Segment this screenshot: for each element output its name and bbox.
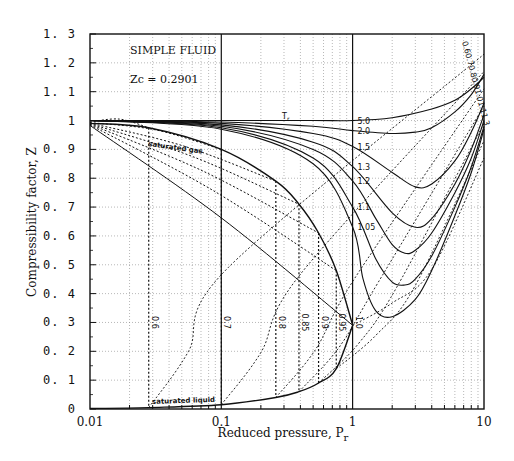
y-tick-label: 0. 2 xyxy=(43,344,76,358)
subcritical-isotherm-label: 0.9 xyxy=(320,316,329,329)
subcritical-isotherm-label: 0.6 xyxy=(150,316,159,329)
chart-curves: 0.60.70.80.850.90.951.05.02.01.51.31.21.… xyxy=(90,40,491,408)
y-tick-label: 0. 3 xyxy=(43,315,76,329)
isotherm-liquid-branch xyxy=(319,123,484,383)
y-tick-label: 0. 9 xyxy=(43,142,76,156)
isotherm-supercritical xyxy=(90,115,484,228)
y-tick-label: 0 xyxy=(68,402,76,416)
supercritical-isotherm-label: 5.0 xyxy=(357,117,370,126)
supercritical-isotherm-label: 1.5 xyxy=(357,143,370,152)
isotherm-liquid-branch xyxy=(276,89,484,398)
y-tick-label: 0. 7 xyxy=(43,200,76,214)
isotherm-gas-branch xyxy=(90,124,299,205)
y-axis-ticks: 00. 10. 20. 30. 40. 50. 60. 70. 80. 911.… xyxy=(43,27,96,416)
y-tick-label: 0. 5 xyxy=(43,258,76,272)
supercritical-isotherm-label: 2.0 xyxy=(357,127,370,136)
subcritical-isotherm-label: 0.8 xyxy=(277,316,286,329)
supercritical-isotherm-label: 1.3 xyxy=(357,163,370,172)
chart-title: SIMPLE FLUID xyxy=(130,44,216,57)
y-tick-label: 1. 2 xyxy=(43,56,76,70)
saturated-gas-label: saturated gas xyxy=(148,140,203,156)
compressibility-chart: 0.60.70.80.850.90.951.05.02.01.51.31.21.… xyxy=(0,0,514,461)
x-axis-title: Reduced pressure, Pr xyxy=(218,426,349,443)
subcritical-isotherm-label: 1.0 xyxy=(354,316,363,329)
subcritical-isotherm-label: 0.85 xyxy=(300,314,309,332)
saturated-liquid-label: saturated liquid xyxy=(152,396,215,406)
zc-annotation: Zc = 0.2901 xyxy=(130,73,199,86)
tr-label: Tr xyxy=(281,112,290,122)
isotherm-liquid-branch xyxy=(336,141,484,369)
y-tick-label: 0. 8 xyxy=(43,171,76,185)
y-axis-title: Compressibility factor, Z xyxy=(25,147,39,297)
supercritical-isotherm-label: 1.05 xyxy=(357,223,375,232)
y-tick-label: 0. 6 xyxy=(43,229,76,243)
supercritical-isotherm-label: 1.1 xyxy=(357,203,370,212)
x-tick-label: 0.01 xyxy=(77,415,104,429)
y-tick-label: 1. 3 xyxy=(43,27,76,41)
y-tick-label: 1. 1 xyxy=(43,85,76,99)
y-tick-label: 0. 4 xyxy=(43,287,76,301)
y-tick-label: 0. 1 xyxy=(43,373,76,387)
x-tick-label: 10 xyxy=(476,415,491,429)
x-tick-label: 1 xyxy=(349,415,357,429)
supercritical-isotherm-label: 1.2 xyxy=(357,177,370,186)
y-tick-label: 1 xyxy=(68,114,76,128)
subcritical-isotherm-label: 0.7 xyxy=(222,316,231,329)
